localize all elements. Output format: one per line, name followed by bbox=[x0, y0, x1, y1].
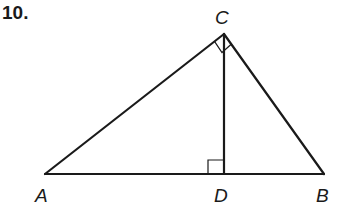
label-d: D bbox=[214, 185, 228, 206]
label-c: C bbox=[215, 7, 229, 28]
right-angle-marker-d bbox=[208, 160, 224, 174]
triangle-diagram: C A D B bbox=[0, 0, 339, 207]
segment-ac bbox=[45, 34, 224, 174]
segment-bc bbox=[224, 34, 324, 174]
label-a: A bbox=[34, 185, 48, 206]
label-b: B bbox=[316, 185, 329, 206]
